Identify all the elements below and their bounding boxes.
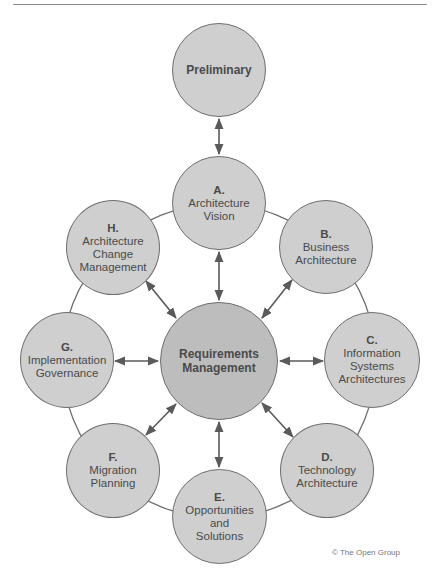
node-f-migration-planning[interactable]: F. Migration Planning: [66, 423, 160, 518]
node-letter: E.: [214, 491, 225, 504]
node-label: Architectures: [338, 373, 405, 386]
node-label: Architecture: [295, 254, 356, 267]
node-label: Systems: [350, 360, 394, 373]
node-e-opportunities-and-solutions[interactable]: E. Opportunities and Solutions: [172, 469, 267, 564]
node-label: Change: [93, 248, 133, 261]
arrow-b-core: [262, 280, 292, 318]
node-label: Information: [343, 347, 401, 360]
node-requirements-management[interactable]: Requirements Management: [160, 302, 278, 420]
arrow-f-core: [146, 404, 176, 435]
node-g-implementation-governance[interactable]: G. Implementation Governance: [20, 312, 114, 408]
arrow-h-core: [146, 281, 176, 318]
node-label: Requirements: [179, 347, 259, 361]
node-label: Opportunities: [185, 504, 253, 517]
node-label: and: [210, 517, 229, 530]
node-label: Migration: [89, 464, 136, 477]
node-letter: G.: [61, 341, 73, 354]
node-a-architecture-vision[interactable]: A. Architecture Vision: [172, 156, 266, 250]
copyright-notice: © The Open Group: [332, 548, 400, 557]
node-label: Preliminary: [186, 63, 251, 77]
node-letter: C.: [366, 334, 378, 347]
node-label: Implementation: [28, 354, 107, 367]
node-label: Governance: [36, 367, 99, 380]
node-label: Technology: [298, 464, 356, 477]
node-label: Management: [182, 361, 255, 375]
node-h-architecture-change-management[interactable]: H. Architecture Change Management: [66, 200, 160, 295]
node-label: Management: [79, 261, 146, 274]
node-d-technology-architecture[interactable]: D. Technology Architecture: [280, 423, 374, 518]
node-label: Planning: [91, 477, 136, 490]
node-letter: H.: [107, 222, 119, 235]
node-label: Architecture: [188, 197, 249, 210]
node-b-business-architecture[interactable]: B. Business Architecture: [279, 200, 373, 294]
node-c-information-systems-architectures[interactable]: C. Information Systems Architectures: [324, 312, 420, 408]
node-label: Solutions: [196, 530, 243, 543]
node-letter: D.: [321, 451, 333, 464]
node-letter: F.: [109, 451, 118, 464]
node-label: Architecture: [296, 477, 357, 490]
node-preliminary[interactable]: Preliminary: [172, 23, 266, 117]
node-letter: A.: [213, 184, 225, 197]
node-label: Architecture: [82, 235, 143, 248]
node-letter: B.: [320, 228, 332, 241]
node-label: Business: [303, 241, 350, 254]
node-label: Vision: [203, 210, 234, 223]
arrow-d-core: [262, 403, 293, 437]
